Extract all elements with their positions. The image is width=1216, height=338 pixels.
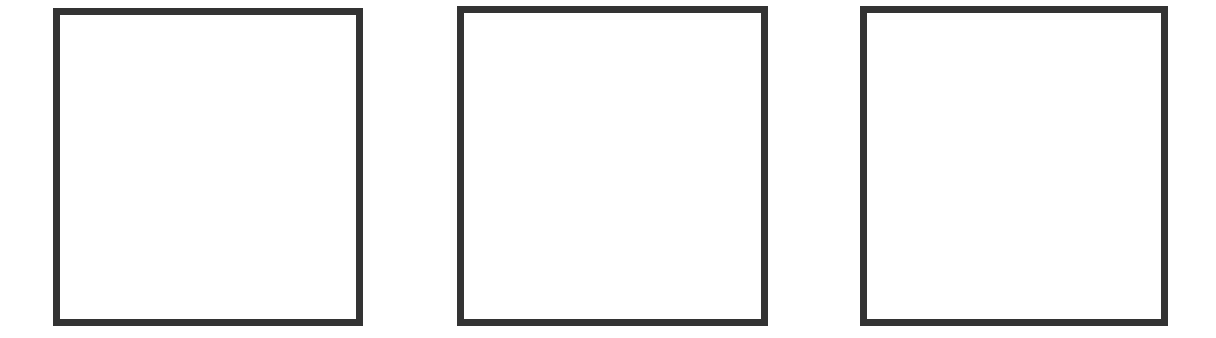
empty-panel-3 <box>860 6 1168 326</box>
empty-panel-1 <box>53 8 363 326</box>
empty-panel-2 <box>457 6 768 326</box>
